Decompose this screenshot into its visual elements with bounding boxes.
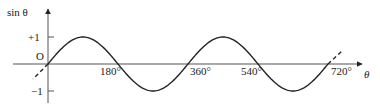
y-axis-label: sin θ <box>7 6 28 18</box>
x-tick-label-360: 360° <box>190 65 211 77</box>
dashed-extension-left <box>33 64 48 79</box>
y-tick-label-minus-one: −1 <box>31 85 43 97</box>
origin-label: O <box>36 50 44 62</box>
x-tick-label-720: 720° <box>331 65 352 77</box>
sine-chart: sin θ θ O +1 −1 180° 360° 540° 720° <box>0 0 380 112</box>
x-axis-label: θ <box>364 68 370 80</box>
x-tick-label-540: 540° <box>241 65 262 77</box>
dashed-extension-right <box>328 51 342 64</box>
y-tick-label-plus-one: +1 <box>28 31 40 43</box>
x-tick-label-180: 180° <box>100 65 121 77</box>
